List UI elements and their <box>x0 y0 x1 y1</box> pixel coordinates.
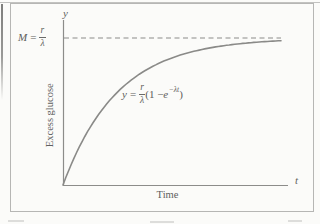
fraction-numerator: r <box>139 83 145 94</box>
curve-equation-label: y = r λ (1 − e −λt ) <box>122 83 183 105</box>
fraction-denominator: λ <box>39 37 45 49</box>
equation-e: e <box>163 89 168 100</box>
x-axis-symbol: t <box>295 175 298 186</box>
asymptote-label-equals: = <box>30 32 36 43</box>
asymptote-label-lhs: M <box>18 32 27 43</box>
equation-close: ) <box>179 89 183 100</box>
fraction-numerator: r <box>40 26 46 37</box>
asymptote-label-fraction: r λ <box>39 26 45 48</box>
figure: y t M = r λ y = r λ (1 − e −λt ) Excess … <box>0 0 320 224</box>
x-axis-title: Time <box>145 190 190 201</box>
y-axis-symbol: y <box>63 8 68 19</box>
equation-equals: = <box>130 89 136 100</box>
equation-exponent: −λt <box>169 86 179 94</box>
equation-lhs: y <box>122 89 127 100</box>
asymptote-label: M = r λ <box>18 26 46 48</box>
y-axis-title: Excess glucose <box>45 70 56 160</box>
exponential-curve <box>63 41 281 185</box>
equation-open: (1 − <box>145 89 163 100</box>
